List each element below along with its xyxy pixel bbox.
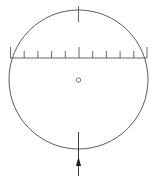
- outer-circle: [9, 10, 148, 149]
- technical-diagram-svg: [0, 0, 157, 179]
- center-point-marker-icon: [76, 78, 80, 82]
- bottom-pointer-arrowhead-icon: [76, 157, 81, 166]
- diagram-canvas: [0, 0, 157, 179]
- scale-tick-group: [11, 47, 148, 58]
